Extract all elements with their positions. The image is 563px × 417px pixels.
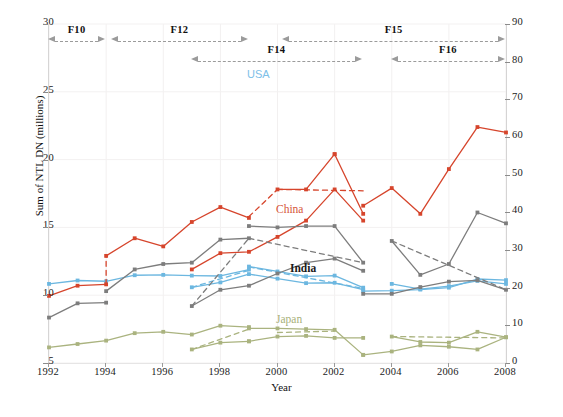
x-tick-mark: [277, 363, 278, 367]
x-tick-label: 2000: [254, 366, 300, 377]
y-tick-mark-right: [505, 175, 510, 176]
arrow-right-icon: [498, 56, 505, 62]
y-tick-mark-right: [505, 62, 510, 63]
phase-annotation-f14: F14: [191, 46, 362, 68]
y-tick-label-right: 50: [512, 167, 552, 178]
x-tick-label: 1996: [139, 366, 185, 377]
arrow-right-icon: [241, 36, 248, 42]
y-tick-label-right: 70: [512, 91, 552, 102]
phase-annotation-f10: F10: [48, 26, 105, 48]
x-tick-mark: [162, 363, 163, 367]
x-tick-label: 2008: [482, 366, 528, 377]
series-india: [47, 211, 508, 320]
y-tick-label-right: 40: [512, 204, 552, 215]
series-label-india: India: [290, 262, 316, 274]
phase-line: [55, 41, 98, 42]
y-tick-label-right: 80: [512, 54, 552, 65]
x-tick-label: 1992: [25, 366, 71, 377]
y-tick-label-right: 20: [512, 280, 552, 291]
x-tick-mark: [105, 363, 106, 367]
y-tick-label-left: 10: [14, 287, 54, 298]
series-label-usa: USA: [247, 68, 270, 80]
y-tick-label-right: 30: [512, 242, 552, 253]
figure-caption: [30, 404, 540, 414]
y-tick-mark-right: [505, 24, 510, 25]
chart-page: 5101520253001020304050607080901992199419…: [0, 0, 563, 417]
series-japan: [47, 324, 508, 357]
phase-line: [198, 61, 355, 62]
y-tick-label-right: 0: [512, 355, 552, 366]
y-tick-mark-right: [505, 137, 510, 138]
phase-label: F12: [111, 24, 248, 35]
x-tick-label: 2002: [311, 366, 357, 377]
x-axis-label: Year: [0, 381, 563, 393]
x-tick-mark: [448, 363, 449, 367]
phase-label: F16: [391, 44, 505, 55]
phase-annotation-f16: F16: [391, 46, 505, 68]
x-tick-label: 2006: [425, 366, 471, 377]
x-tick-label: 2004: [368, 366, 414, 377]
phase-label: F15: [282, 24, 505, 35]
arrow-right-icon: [98, 36, 105, 42]
y-tick-label-right: 60: [512, 129, 552, 140]
phase-line: [289, 41, 498, 42]
arrow-left-icon: [48, 36, 55, 42]
phase-label: F10: [48, 24, 105, 35]
y-tick-label-right: 10: [512, 317, 552, 328]
phase-line: [118, 41, 241, 42]
x-tick-mark: [505, 363, 506, 367]
x-tick-mark: [219, 363, 220, 367]
x-tick-mark: [391, 363, 392, 367]
arrow-right-icon: [498, 36, 505, 42]
arrow-left-icon: [191, 56, 198, 62]
y-tick-label-right: 90: [512, 16, 552, 27]
arrow-left-icon: [111, 36, 118, 42]
arrow-left-icon: [282, 36, 289, 42]
y-tick-mark-right: [505, 99, 510, 100]
phase-line: [398, 61, 498, 62]
y-tick-mark-right: [505, 325, 510, 326]
x-tick-label: 1994: [82, 366, 128, 377]
y-tick-mark-left: [43, 295, 48, 296]
y-axis-label-left: Sum of NTL DN (millions): [33, 71, 45, 241]
x-tick-mark: [334, 363, 335, 367]
arrow-left-icon: [391, 56, 398, 62]
x-tick-mark: [48, 363, 49, 367]
arrow-right-icon: [355, 56, 362, 62]
x-tick-label: 1998: [196, 366, 242, 377]
series-label-japan: Japan: [276, 313, 302, 325]
y-tick-mark-right: [505, 288, 510, 289]
y-tick-mark-right: [505, 250, 510, 251]
series-label-china: China: [276, 203, 303, 215]
y-tick-mark-right: [505, 212, 510, 213]
series-usa: [47, 265, 508, 293]
